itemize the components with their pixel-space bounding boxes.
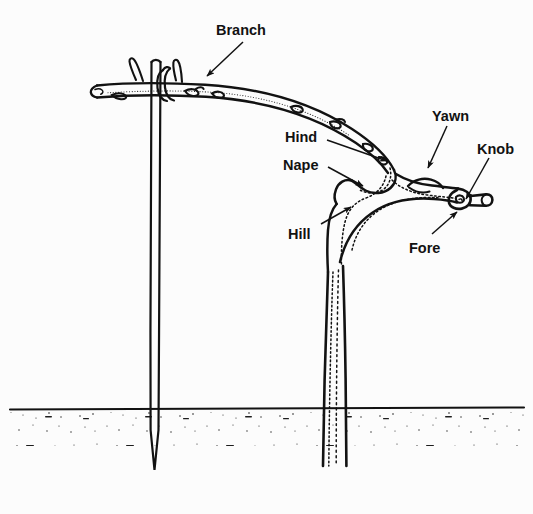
ground <box>8 408 525 447</box>
label-fore: Fore <box>409 240 440 256</box>
label-yawn: Yawn <box>432 108 469 124</box>
label-hill: Hill <box>288 226 311 242</box>
label-nape: Nape <box>283 157 318 173</box>
label-hind: Hind <box>285 129 317 145</box>
label-branch: Branch <box>216 22 266 38</box>
soil-stipple <box>8 412 525 446</box>
label-knob: Knob <box>477 141 514 157</box>
branch-anatomy-figure: Branch Yawn Knob Hind Nape Hill Fore <box>0 0 533 514</box>
